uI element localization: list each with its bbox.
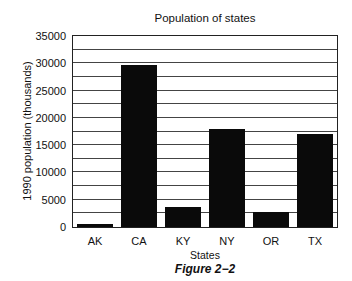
gridline xyxy=(73,103,337,104)
x-tick-label: CA xyxy=(119,235,159,247)
gridline xyxy=(73,117,337,118)
x-tick-label: OR xyxy=(251,235,291,247)
y-tick-label: 25000 xyxy=(0,85,66,97)
y-tick-label: 15000 xyxy=(0,139,66,151)
x-tick-label: AK xyxy=(75,235,115,247)
y-tick-label: 20000 xyxy=(0,112,66,124)
bar-ak xyxy=(77,224,113,227)
y-tick-label: 35000 xyxy=(0,30,66,42)
x-tick-label: TX xyxy=(295,235,335,247)
y-tick-label: 10000 xyxy=(0,166,66,178)
bar-or xyxy=(253,212,289,228)
y-tick-label: 5000 xyxy=(0,194,66,206)
bar-ky xyxy=(165,207,201,227)
bar-tx xyxy=(297,134,333,227)
gridline xyxy=(73,49,337,50)
bar-ca xyxy=(121,65,157,227)
y-tick-label: 0 xyxy=(0,221,66,233)
gridline xyxy=(73,90,337,91)
bar-ny xyxy=(209,129,245,227)
figure-caption: Figure 2−2 xyxy=(72,262,338,276)
gridline xyxy=(73,62,337,63)
y-axis-label: 1990 population (thousands) xyxy=(21,61,33,200)
plot-area xyxy=(72,35,338,228)
chart-title: Population of states xyxy=(72,12,338,24)
y-tick-label: 30000 xyxy=(0,57,66,69)
gridline xyxy=(73,131,337,132)
x-axis-label: States xyxy=(72,249,338,261)
x-tick-label: KY xyxy=(163,235,203,247)
x-tick-label: NY xyxy=(207,235,247,247)
gridline xyxy=(73,76,337,77)
